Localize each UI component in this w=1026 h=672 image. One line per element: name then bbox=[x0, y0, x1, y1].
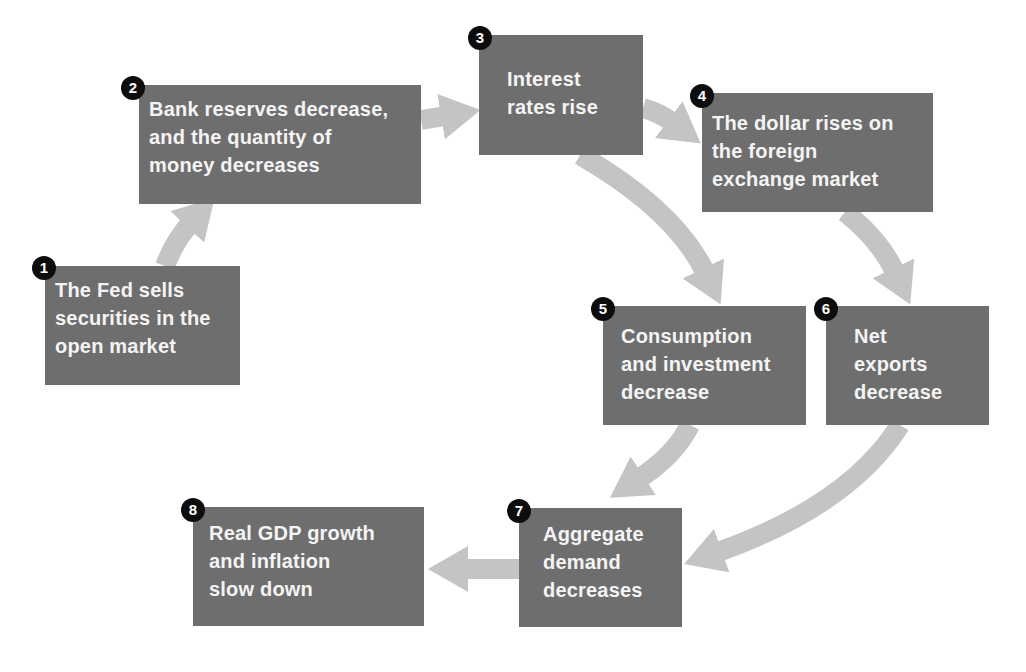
step-6-line-3: decrease bbox=[854, 378, 989, 406]
step-7-line-3: decreases bbox=[543, 576, 682, 604]
arrow-3-to-5 bbox=[580, 155, 705, 272]
arrow-6-to-7 bbox=[718, 425, 900, 552]
step-7-line-1: Aggregate bbox=[543, 520, 682, 548]
arrow-2-to-3 bbox=[421, 116, 445, 120]
step-box-2: Bank reserves decrease, and the quantity… bbox=[139, 85, 421, 204]
step-box-1: The Fed sells securities in the open mar… bbox=[45, 266, 240, 385]
step-4-line-1: The dollar rises on bbox=[712, 109, 933, 137]
step-2-line-1: Bank reserves decrease, bbox=[149, 95, 421, 123]
step-number-badge-3: 3 bbox=[468, 26, 492, 50]
step-box-8: Real GDP growth and inflation slow down bbox=[193, 507, 424, 626]
step-box-4: The dollar rises on the foreign exchange… bbox=[702, 93, 933, 212]
step-3-line-2: rates rise bbox=[507, 93, 643, 121]
step-5-line-1: Consumption bbox=[621, 322, 806, 350]
step-8-line-1: Real GDP growth bbox=[209, 519, 424, 547]
step-5-line-3: decrease bbox=[621, 378, 806, 406]
arrow-3-to-4 bbox=[643, 108, 672, 122]
step-number-badge-4: 4 bbox=[690, 84, 714, 108]
step-number-badge-5: 5 bbox=[591, 297, 615, 321]
step-4-line-3: exchange market bbox=[712, 165, 933, 193]
step-box-6: Net exports decrease bbox=[826, 306, 989, 425]
step-number-badge-7: 7 bbox=[507, 499, 531, 523]
step-6-line-2: exports bbox=[854, 350, 989, 378]
step-2-line-3: money decreases bbox=[149, 151, 421, 179]
step-8-line-2: and inflation bbox=[209, 547, 424, 575]
step-box-5: Consumption and investment decrease bbox=[603, 306, 806, 425]
step-number-badge-8: 8 bbox=[181, 498, 205, 522]
step-8-line-3: slow down bbox=[209, 575, 424, 603]
step-box-3: Interest rates rise bbox=[479, 35, 643, 155]
step-2-line-2: and the quantity of bbox=[149, 123, 421, 151]
arrow-5-to-7 bbox=[640, 425, 690, 478]
step-4-line-2: the foreign bbox=[712, 137, 933, 165]
step-5-line-2: and investment bbox=[621, 350, 806, 378]
step-3-line-1: Interest bbox=[507, 65, 643, 93]
arrow-4-to-6 bbox=[845, 212, 895, 272]
step-7-line-2: demand bbox=[543, 548, 682, 576]
step-number-badge-1: 1 bbox=[32, 256, 56, 280]
step-number-badge-2: 2 bbox=[121, 76, 145, 100]
step-1-line-1: The Fed sells bbox=[55, 276, 240, 304]
step-number-badge-6: 6 bbox=[814, 297, 838, 321]
arrow-1-to-2 bbox=[165, 224, 190, 266]
step-6-line-1: Net bbox=[854, 322, 989, 350]
step-1-line-2: securities in the bbox=[55, 304, 240, 332]
step-box-7: Aggregate demand decreases bbox=[519, 508, 682, 627]
step-1-line-3: open market bbox=[55, 332, 240, 360]
